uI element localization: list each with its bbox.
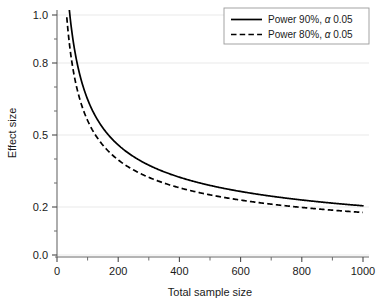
y-tick-label-0.2: 0.2 bbox=[33, 201, 48, 213]
y-tick-label-0.8: 0.8 bbox=[33, 57, 48, 69]
y-axis-tick-labels: 1.0 0.8 0.5 0.2 0.0 bbox=[33, 9, 48, 261]
x-tick-label-600: 600 bbox=[231, 265, 249, 277]
y-tick-label-1.0: 1.0 bbox=[33, 9, 48, 21]
y-axis-major-ticks bbox=[52, 15, 57, 255]
legend-label-power-90-prefix: Power 90%, bbox=[268, 14, 325, 25]
legend: Power 90%, α 0.05 Power 80%, α 0.05 bbox=[224, 8, 369, 44]
x-axis-title: Total sample size bbox=[168, 286, 252, 298]
legend-label-power-80-suffix: 0.05 bbox=[330, 29, 353, 40]
chart-container: 1.0 0.8 0.5 0.2 0.0 Effect size 0 bbox=[0, 0, 383, 307]
legend-label-power-90: Power 90%, α 0.05 bbox=[268, 14, 353, 25]
legend-label-power-80-prefix: Power 80%, bbox=[268, 29, 325, 40]
legend-label-power-80: Power 80%, α 0.05 bbox=[268, 29, 353, 40]
x-axis-tick-labels: 0 200 400 600 800 1000 bbox=[54, 265, 375, 277]
y-tick-label-0.5: 0.5 bbox=[33, 129, 48, 141]
x-tick-label-200: 200 bbox=[109, 265, 127, 277]
effect-size-vs-sample-size-chart: 1.0 0.8 0.5 0.2 0.0 Effect size 0 bbox=[0, 0, 383, 307]
legend-label-power-90-suffix: 0.05 bbox=[330, 14, 353, 25]
x-tick-label-800: 800 bbox=[293, 265, 311, 277]
plot-area-background bbox=[57, 10, 369, 255]
y-tick-label-0.0: 0.0 bbox=[33, 249, 48, 261]
x-tick-label-0: 0 bbox=[54, 265, 60, 277]
x-tick-label-400: 400 bbox=[170, 265, 188, 277]
y-axis-title: Effect size bbox=[6, 108, 18, 159]
x-tick-label-1000: 1000 bbox=[351, 265, 375, 277]
